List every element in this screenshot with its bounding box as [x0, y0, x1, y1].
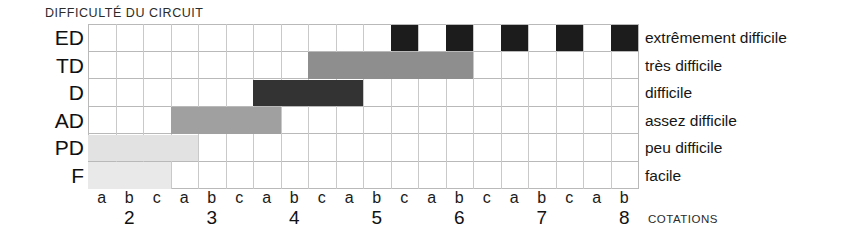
x-tick-letter: b	[198, 189, 226, 207]
legend-label-ad: assez difficile	[645, 107, 737, 135]
x-tick-letter: a	[336, 189, 364, 207]
grid-line-vertical	[528, 24, 529, 189]
bar-cell-ed	[501, 25, 529, 52]
plot-area	[88, 24, 638, 189]
bar-span-pd	[88, 135, 198, 162]
difficulty-chart-figure: DIFFICULTÉ DU CIRCUIT EDTDDADPDF extrême…	[0, 0, 851, 240]
legend-label-ed: extrêmement difficile	[645, 24, 787, 52]
x-tick-letter: a	[501, 189, 529, 207]
row-code-f: F	[30, 162, 84, 190]
chart-title: DIFFICULTÉ DU CIRCUIT	[45, 6, 204, 20]
x-tick-letter: a	[171, 189, 199, 207]
x-tick-letter: a	[253, 189, 281, 207]
grid-line-vertical	[418, 24, 419, 189]
row-code-ed: ED	[30, 24, 84, 52]
bar-cell-ed	[391, 25, 419, 52]
x-tick-number: 5	[363, 207, 391, 229]
x-axis-title: COTATIONS	[648, 213, 718, 225]
grid-line-vertical	[583, 24, 584, 189]
x-tick-letter: c	[473, 189, 501, 207]
x-tick-letter: c	[143, 189, 171, 207]
grid-line-vertical	[308, 24, 309, 189]
row-code-td: TD	[30, 52, 84, 80]
bar-span-ad	[171, 107, 281, 134]
row-code-pd: PD	[30, 134, 84, 162]
bar-span-td	[308, 52, 473, 79]
bar-cell-ed	[611, 25, 639, 52]
bar-cell-ed	[556, 25, 584, 52]
x-tick-letter: a	[418, 189, 446, 207]
x-tick-letter: a	[88, 189, 116, 207]
grid-line-vertical	[363, 24, 364, 189]
bar-span-d	[253, 80, 363, 107]
legend-label-pd: peu difficile	[645, 134, 722, 162]
x-tick-letter: b	[281, 189, 309, 207]
x-tick-letter: a	[583, 189, 611, 207]
x-tick-number: 8	[611, 207, 639, 229]
legend-label-d: difficile	[645, 79, 692, 107]
x-tick-letter: b	[446, 189, 474, 207]
x-tick-letter: b	[611, 189, 639, 207]
legend-label-td: très difficile	[645, 52, 722, 80]
x-tick-number: 4	[281, 207, 309, 229]
grid-line-vertical	[473, 24, 474, 189]
grid-line-vertical	[638, 24, 639, 189]
x-tick-letter: c	[226, 189, 254, 207]
x-tick-number: 2	[116, 207, 144, 229]
legend-label-f: facile	[645, 162, 681, 190]
bar-cell-ed	[446, 25, 474, 52]
bar-span-f	[88, 162, 171, 189]
x-tick-letter: b	[116, 189, 144, 207]
row-code-d: D	[30, 79, 84, 107]
x-tick-number: 6	[446, 207, 474, 229]
x-tick-letter: b	[528, 189, 556, 207]
x-tick-letter: c	[308, 189, 336, 207]
x-tick-letter: b	[363, 189, 391, 207]
x-tick-letter: c	[391, 189, 419, 207]
x-tick-number: 7	[528, 207, 556, 229]
row-code-ad: AD	[30, 107, 84, 135]
grid-line-vertical	[281, 24, 282, 189]
x-tick-number: 3	[198, 207, 226, 229]
grid-line-vertical	[336, 24, 337, 189]
x-tick-letter: c	[556, 189, 584, 207]
